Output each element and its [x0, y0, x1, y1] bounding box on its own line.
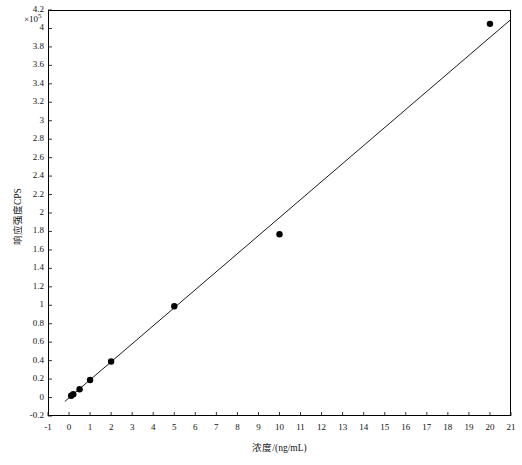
data-point	[76, 386, 82, 392]
y-axis-tick-label: 3.6	[4, 59, 44, 69]
data-point	[487, 21, 493, 27]
data-point	[171, 303, 177, 309]
chart-figure: ×105 y = 19532.165175x − 325.593130 R2 =…	[0, 0, 522, 465]
y-axis-tick-label: 0.4	[4, 355, 44, 365]
data-point	[276, 231, 282, 237]
y-axis-tick-label: 3.2	[4, 96, 44, 106]
x-axis-title: 浓度/(ng/mL)	[240, 440, 320, 454]
y-axis-tick-label: 0.8	[4, 318, 44, 328]
plot-canvas	[0, 0, 522, 465]
x-axis-tick-label: 21	[497, 422, 522, 432]
data-point	[108, 358, 114, 364]
y-axis-tick-label: 2.8	[4, 133, 44, 143]
y-axis-tick-label: 1.2	[4, 281, 44, 291]
y-axis-tick-label: 4.2	[4, 4, 44, 14]
data-point	[70, 391, 76, 397]
y-axis-tick-label: 1.6	[4, 244, 44, 254]
y-axis-tick-label: 2.4	[4, 170, 44, 180]
y-axis-tick-label: 1.4	[4, 262, 44, 272]
y-axis-tick-label: 2.6	[4, 152, 44, 162]
y-axis-tick-label: 1	[4, 299, 44, 309]
y-axis-tick-label: 0	[4, 392, 44, 402]
y-axis-tick-label: -0.2	[4, 410, 44, 420]
regression-line	[65, 19, 511, 401]
y-axis-tick-label: 4	[4, 22, 44, 32]
y-axis-title: 响应强度CPS	[10, 188, 24, 245]
y-axis-tick-label: 0.6	[4, 336, 44, 346]
y-axis-tick-label: 3	[4, 115, 44, 125]
y-axis-tick-label: 3.4	[4, 78, 44, 88]
y-axis-tick-label: 0.2	[4, 373, 44, 383]
y-axis-tick-label: 3.8	[4, 41, 44, 51]
data-point	[87, 377, 93, 383]
